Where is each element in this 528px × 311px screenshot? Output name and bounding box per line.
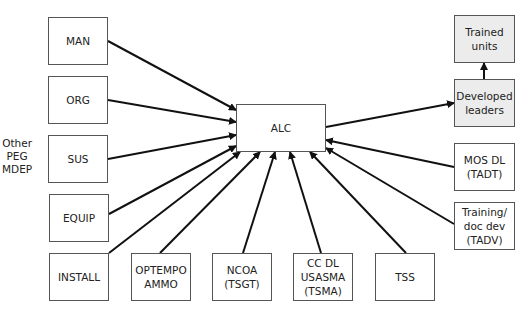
box-equip: EQUIP <box>49 194 109 242</box>
arrow-6 <box>243 152 275 253</box>
box-alc: ALC <box>236 104 326 152</box>
arrow-0 <box>108 41 236 110</box>
arrow-9 <box>326 140 454 167</box>
box-developed: Developed leaders <box>454 79 515 127</box>
box-tss: TSS <box>375 253 435 301</box>
arrow-7 <box>290 152 321 253</box>
box-man: MAN <box>48 17 108 65</box>
arrow-10 <box>326 148 454 224</box>
box-mosdl: MOS DL (TADT) <box>454 143 515 191</box>
arrow-11 <box>326 103 454 127</box>
box-trained: Trained units <box>454 15 515 63</box>
box-ncoa: NCOA (TSGT) <box>212 253 272 301</box>
box-tadv: Training/ doc dev (TADV) <box>454 202 515 250</box>
box-ccdl: CC DL USASMA (TSMA) <box>293 253 353 301</box>
box-org: ORG <box>48 76 108 124</box>
arrow-1 <box>108 100 236 122</box>
box-sus: SUS <box>48 135 108 183</box>
side-label-other-peg-mdep: Other PEG MDEP <box>2 137 32 176</box>
box-optempo: OPTEMPO AMMO <box>131 253 191 301</box>
box-install: INSTALL <box>49 253 109 301</box>
